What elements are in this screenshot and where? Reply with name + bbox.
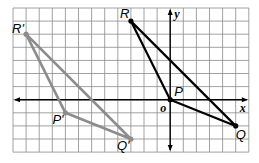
- vertex-point: [63, 110, 68, 115]
- x-axis-left-arrow-icon: [14, 97, 20, 102]
- vertex-label: P: [174, 84, 183, 99]
- vertex-label: Q': [117, 138, 130, 153]
- vertex-point: [168, 97, 173, 102]
- y-axis-up-arrow-icon: [168, 9, 173, 15]
- y-axis-label: y: [172, 7, 180, 21]
- x-axis-label: x: [239, 101, 246, 115]
- y-axis-down-arrow-icon: [168, 145, 173, 151]
- vertex-label: P': [52, 112, 64, 127]
- vertex-point: [24, 32, 29, 37]
- vertex-label: Q: [236, 127, 246, 142]
- vertex-labels: RPQR'P'Q': [12, 6, 246, 153]
- vertex-label: R: [120, 6, 129, 21]
- coordinate-grid-diagram: xyo RPQR'P'Q': [0, 0, 259, 163]
- origin-label: o: [160, 101, 166, 115]
- vertex-label: R': [12, 21, 24, 36]
